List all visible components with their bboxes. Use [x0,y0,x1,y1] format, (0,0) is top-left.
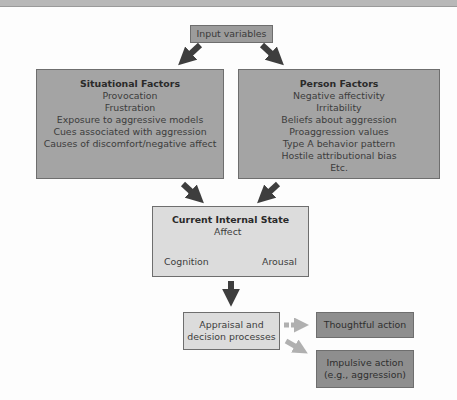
input-variables-box: Input variables [190,25,273,43]
impulsive-action-line2: (e.g., aggression) [317,369,413,381]
arrow-input-to-person [262,45,276,58]
person-item: Hostile attributional bias [239,150,439,162]
arrow-person-to-internal [265,184,278,196]
thoughtful-action-label: Thoughtful action [324,319,407,330]
person-item: Proaggression values [239,126,439,138]
affect-label: Affect [214,226,241,237]
situational-item: Cues associated with aggression [37,126,223,138]
situational-item: Provocation [37,90,223,102]
situational-item: Frustration [37,102,223,114]
person-item: Type A behavior pattern [239,138,439,150]
thoughtful-action-box: Thoughtful action [316,312,414,338]
appraisal-box: Appraisal and decision processes [183,312,280,350]
situational-factors-box: Situational Factors Provocation Frustrat… [36,69,224,179]
appraisal-line2: decision processes [184,331,279,343]
arrow-appraisal-to-impulsive [286,341,300,349]
arrow-input-to-situational [186,45,200,58]
arousal-label: Arousal [262,256,297,267]
impulsive-action-box: Impulsive action (e.g., aggression) [316,350,414,388]
situational-item: Exposure to aggressive models [37,114,223,126]
cognition-label: Cognition [164,256,209,267]
person-item: Negative affectivity [239,90,439,102]
situational-item: Causes of discomfort/negative affect [37,138,223,150]
input-variables-label: Input variables [197,28,267,39]
impulsive-action-line1: Impulsive action [317,357,413,369]
person-factors-title: Person Factors [239,78,439,90]
internal-state-title: Current Internal State [153,214,308,226]
person-item: Beliefs about aggression [239,114,439,126]
arrow-situational-to-internal [183,184,196,196]
appraisal-line1: Appraisal and [184,319,279,331]
situational-factors-title: Situational Factors [37,78,223,90]
person-factors-box: Person Factors Negative affectivity Irri… [238,69,440,179]
person-item: Etc. [239,162,439,174]
person-item: Irritability [239,102,439,114]
